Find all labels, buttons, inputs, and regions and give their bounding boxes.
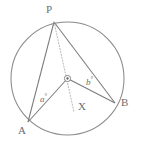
label-angle-a-degree-sign: °: [45, 92, 48, 100]
center-marker-dot: [66, 77, 68, 79]
label-angle-a: a°: [40, 93, 47, 104]
geometry-figure: P A B X a° b°: [0, 0, 141, 148]
label-point-p: P: [46, 4, 52, 15]
label-angle-b-degree-sign: °: [91, 75, 94, 83]
label-point-a: A: [18, 125, 26, 136]
label-point-b: B: [121, 97, 128, 108]
segment-p-b: [54, 22, 115, 103]
label-point-x: X: [78, 101, 86, 112]
label-angle-b: b°: [86, 76, 93, 87]
